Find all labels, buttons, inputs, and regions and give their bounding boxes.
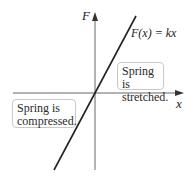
stretched-line-1: Spring is — [122, 65, 159, 91]
compressed-region-box: Spring is compressed. — [12, 99, 76, 128]
hookes-law-diagram: F x F(x) = kx Spring is stretched. Sprin… — [0, 0, 191, 176]
equation-label: F(x) = kx — [131, 26, 176, 41]
x-axis-label: x — [176, 96, 182, 112]
compressed-line-2: compressed. — [17, 115, 71, 128]
f-axis-label: F — [82, 8, 90, 24]
f-axis-arrow-icon — [92, 12, 98, 21]
stretched-region-box: Spring is stretched. — [117, 62, 164, 90]
stretched-line-2: stretched. — [122, 91, 159, 104]
